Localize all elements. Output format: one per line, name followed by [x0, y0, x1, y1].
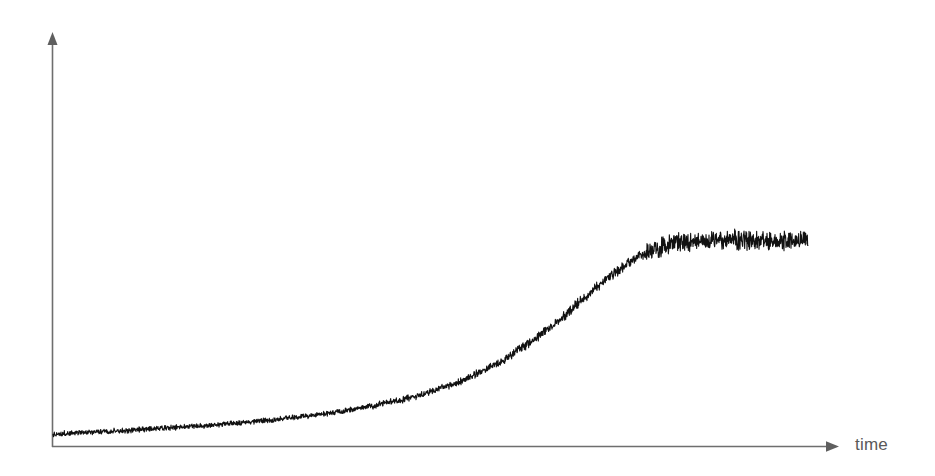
x-axis [52, 441, 839, 451]
plot-area [0, 0, 935, 476]
chart-figure: time [0, 0, 935, 476]
arrow-right-icon [826, 441, 839, 451]
y-axis [48, 32, 58, 447]
x-axis-label: time [855, 436, 888, 453]
arrow-up-icon [48, 32, 58, 45]
data-series-signal [53, 229, 808, 437]
